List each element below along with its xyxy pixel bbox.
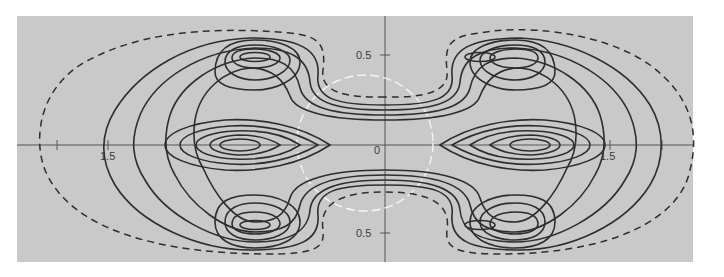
x-tick-label-left: 1.5 [100,150,115,162]
y-tick-label-top: 0.5 [356,49,371,61]
origin-label: 0 [374,144,380,156]
contour-plot: 0 1.5 1.5 0.5 0.5 [0,0,724,277]
x-tick-label-right: 1.5 [600,150,615,162]
y-tick-label-bottom: 0.5 [356,227,371,239]
plot-background [17,16,693,262]
